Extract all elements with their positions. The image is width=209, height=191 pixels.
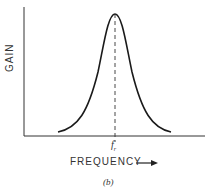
peak-frequency-label: fr bbox=[111, 139, 116, 152]
right-arrow-icon bbox=[151, 160, 158, 166]
r-subscript: r bbox=[114, 146, 116, 152]
y-axis-label: GAIN bbox=[4, 44, 15, 72]
resonance-curve bbox=[58, 14, 171, 132]
figure-caption: (b) bbox=[103, 177, 114, 187]
x-axis-label: FREQUENCY bbox=[70, 156, 142, 167]
